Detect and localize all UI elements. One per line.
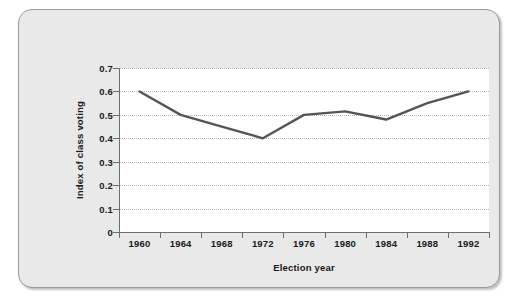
plot-area xyxy=(119,68,489,232)
y-tick-label-0.1: 0.1 xyxy=(71,204,113,215)
y-tick-label-0.2: 0.2 xyxy=(71,180,113,191)
y-tick-label-0.4: 0.4 xyxy=(71,133,113,144)
y-tick-label-0.6: 0.6 xyxy=(71,86,113,97)
x-tick-label-1968: 1968 xyxy=(201,238,242,249)
chart-screenshot: Index of class voting 0.7 0.6 0.5 0.4 0.… xyxy=(0,0,520,301)
x-tick-label-1964: 1964 xyxy=(160,238,201,249)
x-tick-label-1960: 1960 xyxy=(119,238,160,249)
y-tick-label-0: 0 xyxy=(71,227,113,238)
x-tick-label-1984: 1984 xyxy=(366,238,407,249)
x-tick-label-1988: 1988 xyxy=(407,238,448,249)
figure-card: Index of class voting 0.7 0.6 0.5 0.4 0.… xyxy=(18,9,500,288)
y-tick-label-0.7: 0.7 xyxy=(71,63,113,74)
x-axis-title: Election year xyxy=(119,262,489,273)
series-line-index-of-class-voting xyxy=(119,68,489,232)
x-tick-label-1992: 1992 xyxy=(448,238,489,249)
x-tick-mark-9 xyxy=(489,232,490,238)
y-tick-label-0.3: 0.3 xyxy=(71,157,113,168)
x-axis-line xyxy=(119,232,490,233)
x-tick-label-1972: 1972 xyxy=(242,238,283,249)
x-tick-label-1980: 1980 xyxy=(325,238,366,249)
y-axis-line xyxy=(119,68,120,233)
y-tick-label-0.5: 0.5 xyxy=(71,110,113,121)
x-tick-label-1976: 1976 xyxy=(283,238,324,249)
